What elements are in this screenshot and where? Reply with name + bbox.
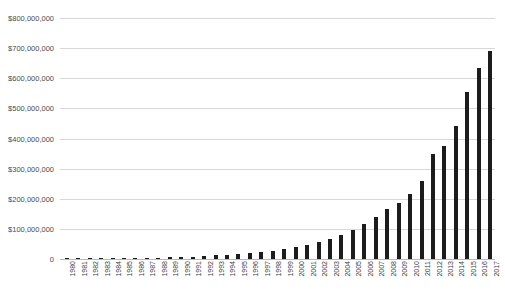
bar	[271, 251, 275, 259]
bar	[156, 258, 160, 260]
gridline	[60, 18, 495, 19]
x-axis-tick-label: 1993	[218, 261, 225, 291]
x-axis-tick-label: 1997	[264, 261, 271, 291]
bar	[385, 209, 389, 259]
x-axis-tick-label: 2008	[390, 261, 397, 291]
bar	[225, 255, 229, 259]
bar	[88, 258, 92, 259]
x-axis-tick-label: 1989	[172, 261, 179, 291]
bar	[65, 258, 69, 259]
y-axis-tick-label: $700,000,000	[0, 44, 54, 53]
x-axis-tick-label: 1996	[252, 261, 259, 291]
x-axis-tick-label: 1999	[287, 261, 294, 291]
x-axis-tick-label: 2006	[367, 261, 374, 291]
y-axis-tick-label: $400,000,000	[0, 134, 54, 143]
x-axis-tick-label: 2001	[310, 261, 317, 291]
bar	[191, 257, 195, 259]
bar	[339, 235, 343, 259]
x-axis-tick-label: 1984	[115, 261, 122, 291]
bar	[488, 51, 492, 259]
x-axis-tick-label: 2012	[436, 261, 443, 291]
x-axis-tick-label: 1986	[138, 261, 145, 291]
x-axis-tick-label: 1994	[229, 261, 236, 291]
bar	[477, 68, 481, 259]
bar	[465, 92, 469, 259]
bar	[236, 254, 240, 259]
y-axis-tick-label: $200,000,000	[0, 194, 54, 203]
bar	[362, 224, 366, 259]
bar	[248, 253, 252, 259]
bar	[305, 245, 309, 259]
bar	[111, 258, 115, 259]
x-axis-tick-label: 2015	[470, 261, 477, 291]
bar	[202, 256, 206, 259]
gridline	[60, 169, 495, 170]
bar	[168, 257, 172, 259]
axis-baseline	[60, 259, 495, 260]
y-axis-tick-label: $300,000,000	[0, 164, 54, 173]
y-axis-tick-label: $100,000,000	[0, 224, 54, 233]
bar	[328, 239, 332, 259]
x-axis-tick-label: 2013	[447, 261, 454, 291]
gridline	[60, 108, 495, 109]
x-axis-tick-label: 1987	[149, 261, 156, 291]
x-axis-tick-label: 2002	[321, 261, 328, 291]
x-axis-tick-label: 2007	[378, 261, 385, 291]
bar	[397, 203, 401, 259]
x-axis-tick-label: 2011	[424, 261, 431, 291]
bar	[351, 230, 355, 259]
bar	[408, 194, 412, 259]
x-axis-tick-label: 2004	[344, 261, 351, 291]
gridline	[60, 48, 495, 49]
bar	[179, 257, 183, 259]
bar	[214, 255, 218, 259]
gridline	[60, 78, 495, 79]
bar	[454, 126, 458, 259]
x-axis-tick-label: 1998	[275, 261, 282, 291]
bar	[122, 258, 126, 259]
y-axis-tick-label: $600,000,000	[0, 74, 54, 83]
bar	[76, 258, 80, 259]
bar	[259, 252, 263, 259]
x-axis-tick-label: 2016	[481, 261, 488, 291]
x-axis-tick-label: 2003	[333, 261, 340, 291]
x-axis-tick-label: 2009	[401, 261, 408, 291]
plot-area	[60, 18, 495, 259]
x-axis-tick-label: 2005	[355, 261, 362, 291]
bar	[294, 247, 298, 259]
x-axis-tick-label: 2000	[298, 261, 305, 291]
bar	[442, 146, 446, 259]
gridline	[60, 229, 495, 230]
bar	[133, 258, 137, 259]
x-axis: 1980198119821983198419851986198719881989…	[60, 261, 495, 293]
x-axis-tick-label: 2017	[493, 261, 500, 291]
bar	[374, 217, 378, 259]
bar	[99, 258, 103, 259]
y-axis-tick-label: $500,000,000	[0, 104, 54, 113]
x-axis-tick-label: 1990	[184, 261, 191, 291]
x-axis-tick-label: 1988	[161, 261, 168, 291]
y-axis-tick-label: $800,000,000	[0, 14, 54, 23]
x-axis-tick-label: 1992	[207, 261, 214, 291]
x-axis-tick-label: 1985	[126, 261, 133, 291]
gridline	[60, 199, 495, 200]
x-axis-tick-label: 2010	[413, 261, 420, 291]
bar	[145, 258, 149, 259]
x-axis-tick-label: 2014	[458, 261, 465, 291]
x-axis-tick-label: 1982	[92, 261, 99, 291]
chart-container: 0$100,000,000$200,000,000$300,000,000$40…	[0, 0, 505, 293]
y-axis: 0$100,000,000$200,000,000$300,000,000$40…	[0, 18, 57, 259]
y-axis-tick-label: 0	[0, 255, 54, 264]
x-axis-tick-label: 1991	[195, 261, 202, 291]
bar	[317, 242, 321, 259]
bar	[282, 249, 286, 259]
x-axis-tick-label: 1995	[241, 261, 248, 291]
gridline	[60, 139, 495, 140]
x-axis-tick-label: 1983	[104, 261, 111, 291]
bar	[431, 154, 435, 259]
x-axis-tick-label: 1980	[69, 261, 76, 291]
bar	[420, 181, 424, 259]
x-axis-tick-label: 1981	[81, 261, 88, 291]
